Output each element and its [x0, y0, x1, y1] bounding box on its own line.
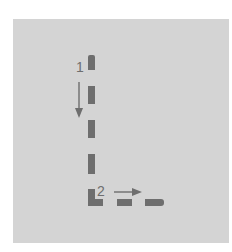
arrow-right-icon: [114, 188, 142, 196]
direction-arrows: [0, 0, 232, 252]
arrow-down-icon: [75, 82, 83, 118]
